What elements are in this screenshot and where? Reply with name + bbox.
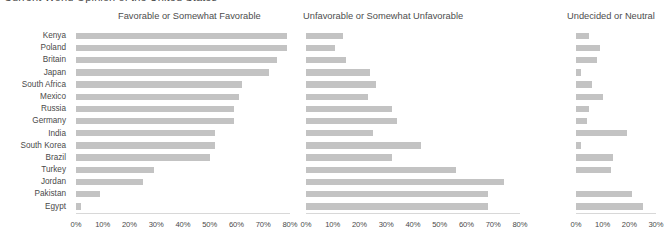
bar-rows — [576, 30, 656, 213]
bar-row — [576, 176, 656, 188]
bar-row — [306, 201, 520, 213]
bar — [306, 179, 504, 185]
bar-row — [306, 67, 520, 79]
bar-row — [76, 201, 290, 213]
bar — [76, 33, 287, 39]
bar-row — [306, 91, 520, 103]
bar-row — [306, 42, 520, 54]
bar-row — [576, 67, 656, 79]
x-tick-label: 70% — [486, 220, 501, 229]
x-tick-label: 30% — [648, 220, 663, 229]
panel-unfavorable — [306, 30, 520, 213]
category-axis-labels: KenyaPolandBritainJapanSouth AfricaMexic… — [0, 30, 70, 213]
bar — [76, 203, 81, 209]
bar — [576, 191, 632, 197]
bar-row — [576, 91, 656, 103]
bar-row — [576, 188, 656, 200]
bar — [576, 203, 643, 209]
bar-row — [306, 115, 520, 127]
bar — [76, 130, 215, 136]
panel-favorable — [76, 30, 290, 213]
bar — [306, 167, 456, 173]
bar-row — [576, 201, 656, 213]
bar-row — [76, 140, 290, 152]
bar-row — [576, 164, 656, 176]
category-label: Brazil — [0, 152, 70, 164]
bar — [76, 118, 234, 124]
x-tick-label: 20% — [352, 220, 367, 229]
category-label: South Korea — [0, 140, 70, 152]
panel-undecided — [576, 30, 656, 213]
bar-row — [576, 115, 656, 127]
bar — [306, 130, 373, 136]
x-tick-label: 0% — [71, 220, 82, 229]
bar-row — [76, 115, 290, 127]
bar — [76, 81, 242, 87]
bar-row — [576, 42, 656, 54]
bar-row — [76, 188, 290, 200]
bar-row — [576, 140, 656, 152]
bar-row — [76, 42, 290, 54]
bar-row — [576, 54, 656, 66]
x-tick-label: 80% — [512, 220, 527, 229]
bar-row — [306, 103, 520, 115]
bar — [76, 94, 239, 100]
bar — [576, 118, 587, 124]
bar — [576, 167, 611, 173]
bar-row — [76, 30, 290, 42]
category-label: Egypt — [0, 201, 70, 213]
bar — [576, 142, 581, 148]
x-tick-label: 20% — [622, 220, 637, 229]
bar — [306, 57, 346, 63]
bar-rows — [306, 30, 520, 213]
category-label: Turkey — [0, 164, 70, 176]
bar-row — [76, 79, 290, 91]
bar-row — [306, 128, 520, 140]
bar — [576, 94, 603, 100]
bar-row — [576, 152, 656, 164]
category-label: Poland — [0, 42, 70, 54]
x-tick-label: 10% — [95, 220, 110, 229]
x-tick-label: 60% — [459, 220, 474, 229]
x-tick-label: 60% — [229, 220, 244, 229]
bar — [306, 45, 335, 51]
category-label: South Africa — [0, 79, 70, 91]
bar — [306, 33, 343, 39]
bar — [576, 106, 589, 112]
x-axis-favorable — [76, 213, 290, 214]
x-tick-label: 30% — [379, 220, 394, 229]
category-label: Jordan — [0, 176, 70, 188]
x-tick-label: 80% — [282, 220, 297, 229]
x-tick-label: 50% — [432, 220, 447, 229]
x-tick-label: 40% — [175, 220, 190, 229]
bar-row — [306, 79, 520, 91]
bar — [76, 191, 100, 197]
bar-row — [76, 91, 290, 103]
bar — [76, 179, 143, 185]
bar — [306, 154, 392, 160]
bar-row — [306, 188, 520, 200]
bar-rows — [76, 30, 290, 213]
x-tick-label: 50% — [202, 220, 217, 229]
bar — [306, 94, 368, 100]
category-label: Japan — [0, 67, 70, 79]
category-label: Mexico — [0, 91, 70, 103]
bar — [576, 81, 592, 87]
category-label: Pakistan — [0, 188, 70, 200]
bar-row — [306, 164, 520, 176]
category-label: Russia — [0, 103, 70, 115]
x-tick-labels-unfavorable: 0%10%20%30%40%50%60%70%80% — [306, 220, 520, 232]
bar-row — [306, 152, 520, 164]
panel-title-favorable: Favorable or Somewhat Favorable — [118, 11, 261, 21]
x-tick-label: 20% — [122, 220, 137, 229]
x-tick-label: 70% — [256, 220, 271, 229]
bar — [76, 167, 154, 173]
bar — [76, 45, 287, 51]
x-axis-unfavorable — [306, 213, 520, 214]
x-tick-label: 10% — [595, 220, 610, 229]
x-tick-label: 10% — [325, 220, 340, 229]
bar — [306, 142, 421, 148]
x-axis-undecided — [576, 213, 656, 214]
bar — [576, 154, 613, 160]
bar — [306, 81, 376, 87]
